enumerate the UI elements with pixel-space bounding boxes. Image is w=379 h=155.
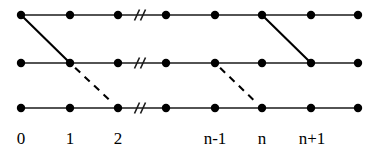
node-bottom-col3 bbox=[162, 104, 170, 112]
node-top-col6 bbox=[307, 11, 315, 19]
node-bottom-col6 bbox=[307, 104, 315, 112]
solid-edges-group bbox=[21, 15, 311, 63]
node-top-col7 bbox=[354, 11, 362, 19]
node-top-col3 bbox=[162, 11, 170, 19]
node-middle-col4 bbox=[211, 59, 219, 67]
node-bottom-col2 bbox=[114, 104, 122, 112]
tick-label-2: 2 bbox=[114, 129, 123, 148]
tick-labels-group: 012n-1nn+1 bbox=[17, 129, 326, 148]
node-middle-col5 bbox=[258, 59, 266, 67]
node-bottom-col5 bbox=[258, 104, 266, 112]
node-middle-col2 bbox=[114, 59, 122, 67]
node-top-col0 bbox=[17, 11, 25, 19]
node-middle-col3 bbox=[162, 59, 170, 67]
edge-top0-to-mid1 bbox=[21, 15, 70, 63]
break-marks-group bbox=[135, 10, 146, 114]
node-dots-group bbox=[17, 11, 362, 112]
node-top-col2 bbox=[114, 11, 122, 19]
node-bottom-col1 bbox=[66, 104, 74, 112]
tick-label-n+1: n+1 bbox=[299, 129, 326, 148]
tick-label-n: n bbox=[258, 129, 267, 148]
tick-label-1: 1 bbox=[66, 129, 75, 148]
node-middle-col7 bbox=[354, 59, 362, 67]
tick-label-n-1: n-1 bbox=[204, 129, 227, 148]
node-bottom-col0 bbox=[17, 104, 25, 112]
tick-label-0: 0 bbox=[17, 129, 26, 148]
node-top-col5 bbox=[258, 11, 266, 19]
node-middle-col1 bbox=[66, 59, 74, 67]
node-bottom-col4 bbox=[211, 104, 219, 112]
node-top-col4 bbox=[211, 11, 219, 19]
node-bottom-col7 bbox=[354, 104, 362, 112]
diagram-canvas: 012n-1nn+1 bbox=[0, 0, 379, 155]
dashed-edges-group bbox=[75, 68, 257, 103]
lattice-diagram-figure: 012n-1nn+1 bbox=[0, 0, 379, 155]
node-top-col1 bbox=[66, 11, 74, 19]
edge-top5-to-mid6 bbox=[262, 15, 311, 63]
edge-mid4-to-bot5 bbox=[220, 68, 257, 103]
node-middle-col6 bbox=[307, 59, 315, 67]
node-middle-col0 bbox=[17, 59, 25, 67]
edge-mid1-to-bot2 bbox=[75, 68, 113, 103]
